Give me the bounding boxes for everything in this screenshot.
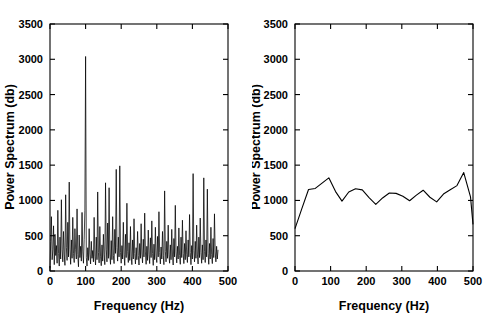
- y-tick-label: 0: [37, 265, 43, 277]
- y-tick-label: 2500: [264, 89, 288, 101]
- y-tick-label: 1500: [19, 159, 43, 171]
- x-tick-label: 200: [357, 275, 375, 287]
- y-axis-label-right: Power Spectrum (db): [252, 84, 263, 210]
- panel-raw-periodogram: 0500100015002000250030003500 01002003004…: [0, 0, 252, 335]
- plot-right-svg: 0500100015002000250030003500 01002003004…: [252, 0, 504, 335]
- y-tick-label: 500: [270, 230, 288, 242]
- y-tick-label: 3500: [264, 18, 288, 30]
- series-smoothed-spectrum: [295, 173, 473, 229]
- y-tick-label: 1000: [19, 194, 43, 206]
- series-raw-periodogram: [50, 56, 218, 268]
- y-tick-label: 1500: [264, 159, 288, 171]
- y-tick-label: 2000: [264, 124, 288, 136]
- x-tick-label: 200: [112, 275, 130, 287]
- x-tick-label: 300: [148, 275, 166, 287]
- x-tick-label: 100: [321, 275, 339, 287]
- y-tick-label: 0: [282, 265, 288, 277]
- x-tick-label: 0: [47, 275, 53, 287]
- y-axis-label-left: Power Spectrum (db): [3, 84, 17, 210]
- y-tick-label: 3500: [19, 18, 43, 30]
- y-tick-label: 2500: [19, 89, 43, 101]
- plot-right-frame: [295, 24, 473, 271]
- x-tick-label: 300: [393, 275, 411, 287]
- x-tick-label: 500: [219, 275, 237, 287]
- panel-smoothed-spectrum: 0500100015002000250030003500 01002003004…: [252, 0, 504, 335]
- x-tick-label: 400: [183, 275, 201, 287]
- x-axis-label-left: Frequency (Hz): [94, 299, 184, 313]
- x-tick-label: 400: [428, 275, 446, 287]
- x-axis-label-right: Frequency (Hz): [339, 299, 429, 313]
- plot-left-svg: 0500100015002000250030003500 01002003004…: [0, 0, 252, 335]
- y-tick-label: 1000: [264, 194, 288, 206]
- figure-two-panel-power-spectrum: 0500100015002000250030003500 01002003004…: [0, 0, 504, 335]
- x-tick-label: 500: [464, 275, 482, 287]
- y-tick-label: 2000: [19, 124, 43, 136]
- x-tick-label: 0: [292, 275, 298, 287]
- plot-right-xticks: 0100200300400500: [292, 24, 482, 287]
- y-tick-label: 500: [25, 230, 43, 242]
- x-tick-label: 100: [76, 275, 94, 287]
- y-tick-label: 3000: [19, 53, 43, 65]
- y-tick-label: 3000: [264, 53, 288, 65]
